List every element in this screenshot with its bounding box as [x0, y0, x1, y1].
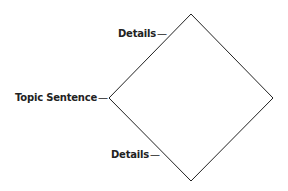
label-bottom-details: Details— [111, 149, 160, 161]
label-text: Details [111, 149, 149, 160]
label-text: Details [118, 28, 156, 39]
label-dash: — [150, 149, 160, 160]
label-top-details: Details— [118, 28, 167, 40]
label-text: Topic Sentence [15, 92, 97, 103]
label-dash: — [157, 28, 167, 39]
label-topic-sentence: Topic Sentence— [15, 92, 108, 104]
label-dash: — [98, 92, 108, 103]
